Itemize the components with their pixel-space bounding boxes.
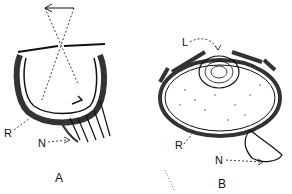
panel-label-a: A: [55, 172, 63, 184]
callout-a-n: N: [38, 138, 46, 149]
callout-b-n: N: [215, 155, 223, 166]
panel-a-drawing: [14, 4, 110, 143]
callout-a-r: R: [4, 128, 12, 139]
callout-b-r: R: [175, 140, 183, 151]
panel-b-drawing: [160, 39, 282, 192]
callout-b-l: L: [182, 37, 188, 48]
eye-diagram: [0, 0, 292, 194]
panel-label-b: B: [218, 178, 226, 190]
